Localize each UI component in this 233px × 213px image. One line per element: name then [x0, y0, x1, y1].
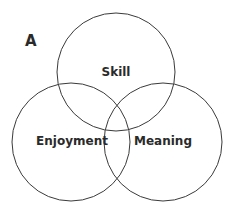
skill-label: Skill	[102, 65, 131, 79]
venn-svg: A Skill Enjoyment Meaning	[0, 0, 233, 213]
enjoyment-label: Enjoyment	[36, 134, 108, 148]
venn-diagram: A Skill Enjoyment Meaning	[0, 0, 233, 213]
meaning-label: Meaning	[134, 134, 192, 148]
panel-label: A	[25, 32, 37, 50]
